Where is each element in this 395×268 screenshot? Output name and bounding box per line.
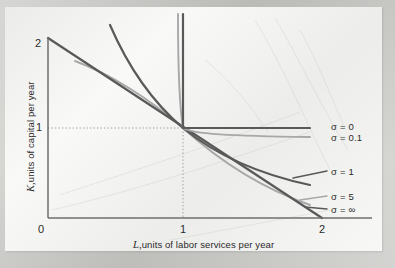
legend-label-sigma-infinity: σ = ∞ <box>331 205 355 215</box>
x-tick-1: 1 <box>180 224 186 235</box>
x-tick-2: 2 <box>319 224 325 235</box>
legend-leader-sigma-5 <box>300 196 327 200</box>
x-axis-symbol: L, <box>133 239 142 250</box>
curve-sigma-1 <box>110 25 310 185</box>
legend-label-sigma-1: σ = 1 <box>331 167 354 177</box>
y-axis-title: K,units of capital per year <box>26 81 37 192</box>
y-tick-1: 1 <box>36 122 42 133</box>
figure-container: 2 1 0 1 2 L,units of labor services per … <box>0 0 395 268</box>
legend-leader-sigma-1 <box>293 171 327 178</box>
curve-sigma-0-1 <box>178 14 310 137</box>
legend-label-sigma-5: σ = 5 <box>331 192 354 202</box>
legend-label-sigma-0-1: σ = 0.1 <box>331 133 362 143</box>
legend-label-sigma-0: σ = 0 <box>331 122 354 132</box>
y-tick-2: 2 <box>35 38 41 49</box>
y-axis-title-text: units of capital per year <box>25 81 36 182</box>
y-axis-symbol: K, <box>25 182 36 192</box>
curve-sigma-0 <box>183 14 310 128</box>
x-axis-title-text: units of labor services per year <box>142 239 275 250</box>
guide-lines <box>48 128 183 218</box>
x-tick-0: 0 <box>38 224 44 235</box>
x-axis-title: L,units of labor services per year <box>133 240 274 251</box>
